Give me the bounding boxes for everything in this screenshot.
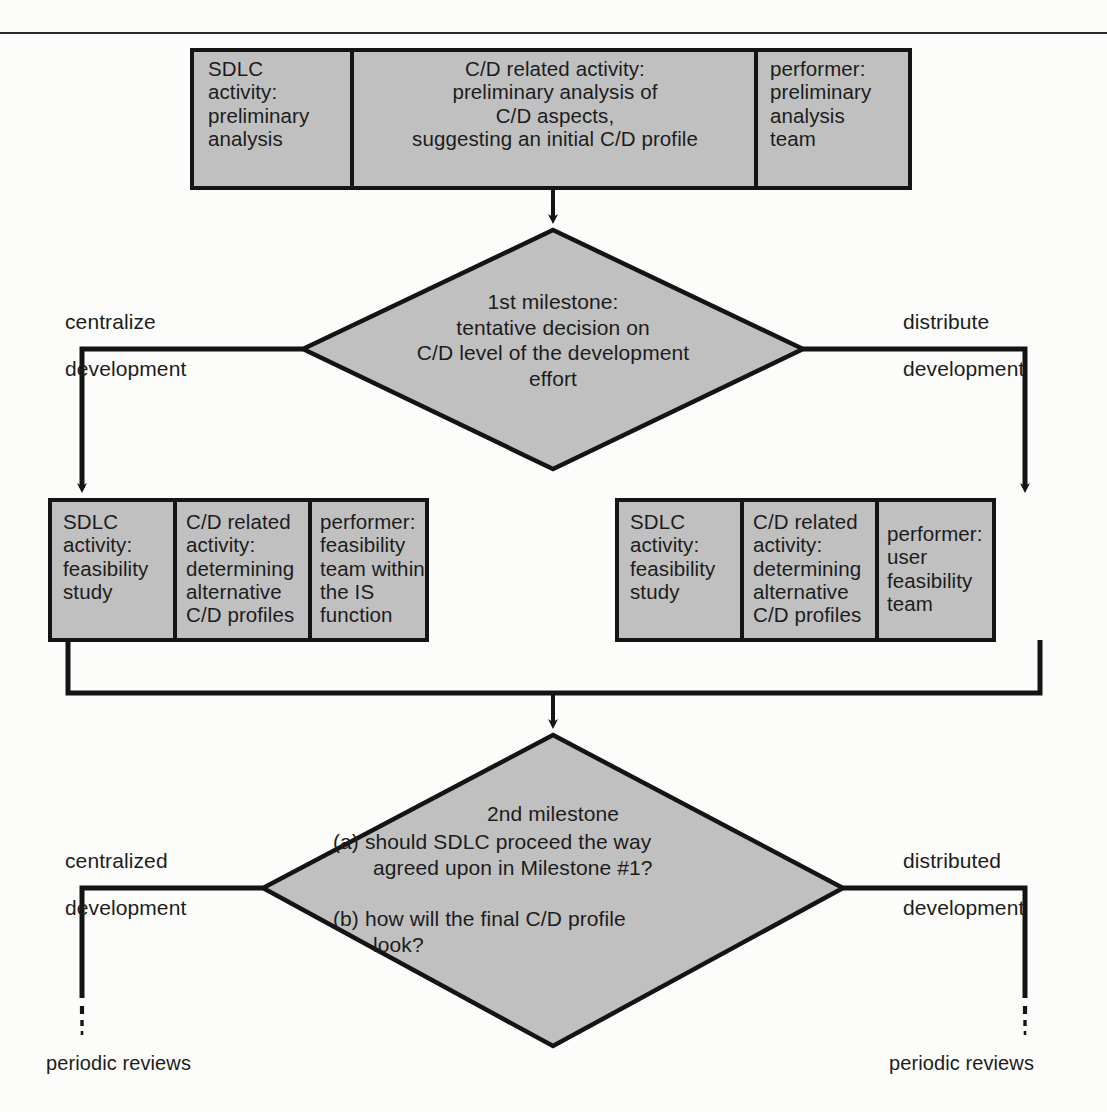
left-box-cell-cd-related-activity: C/D related activity: determining altern… <box>186 510 314 627</box>
terminal-right-periodic-reviews: periodic reviews <box>889 1052 1034 1075</box>
branch1-left-bottom-label: development <box>65 357 186 381</box>
left-box-cell-performer: performer: feasibility team within the I… <box>320 510 440 627</box>
branch1-right-top-label: distribute <box>903 310 989 334</box>
milestone2-question-a-line2: agreed upon in Milestone #1? <box>373 855 793 881</box>
flowchart-page: SDLC activity: preliminary analysis C/D … <box>0 0 1107 1112</box>
branch2-right-bottom-label: development <box>903 896 1024 920</box>
right-box-cell-sdlc-activity: SDLC activity: feasibility study <box>630 510 742 603</box>
right-box-cell-performer: performer: user feasibility team <box>887 522 999 615</box>
terminal-left-periodic-reviews: periodic reviews <box>46 1052 191 1075</box>
milestone2-question-a-line1: (a) should SDLC proceed the way <box>333 829 773 855</box>
milestone2-heading: 2nd milestone <box>363 801 743 827</box>
top-box-cell-performer: performer: preliminary analysis team <box>770 57 910 150</box>
top-box-cell-sdlc-activity: SDLC activity: preliminary analysis <box>208 57 348 150</box>
branch2-right-top-label: distributed <box>903 849 1001 873</box>
branch1-left-top-label: centralize <box>65 310 156 334</box>
milestone2-diamond <box>263 735 843 1046</box>
milestone2-question-b-line1: (b) how will the final C/D profile <box>333 906 773 932</box>
right-box-cell-cd-related-activity: C/D related activity: determining altern… <box>753 510 881 627</box>
branch2-left-bottom-label: development <box>65 896 186 920</box>
milestone2-question-b-line2: look? <box>373 932 793 958</box>
milestone1-label: 1st milestone: tentative decision on C/D… <box>303 289 803 391</box>
top-box-cell-cd-related-activity: C/D related activity: preliminary analys… <box>360 57 750 150</box>
branch1-right-bottom-label: development <box>903 357 1024 381</box>
branch2-left-top-label: centralized <box>65 849 168 873</box>
left-box-cell-sdlc-activity: SDLC activity: feasibility study <box>63 510 175 603</box>
connector-leftbox-merge <box>68 640 1040 693</box>
